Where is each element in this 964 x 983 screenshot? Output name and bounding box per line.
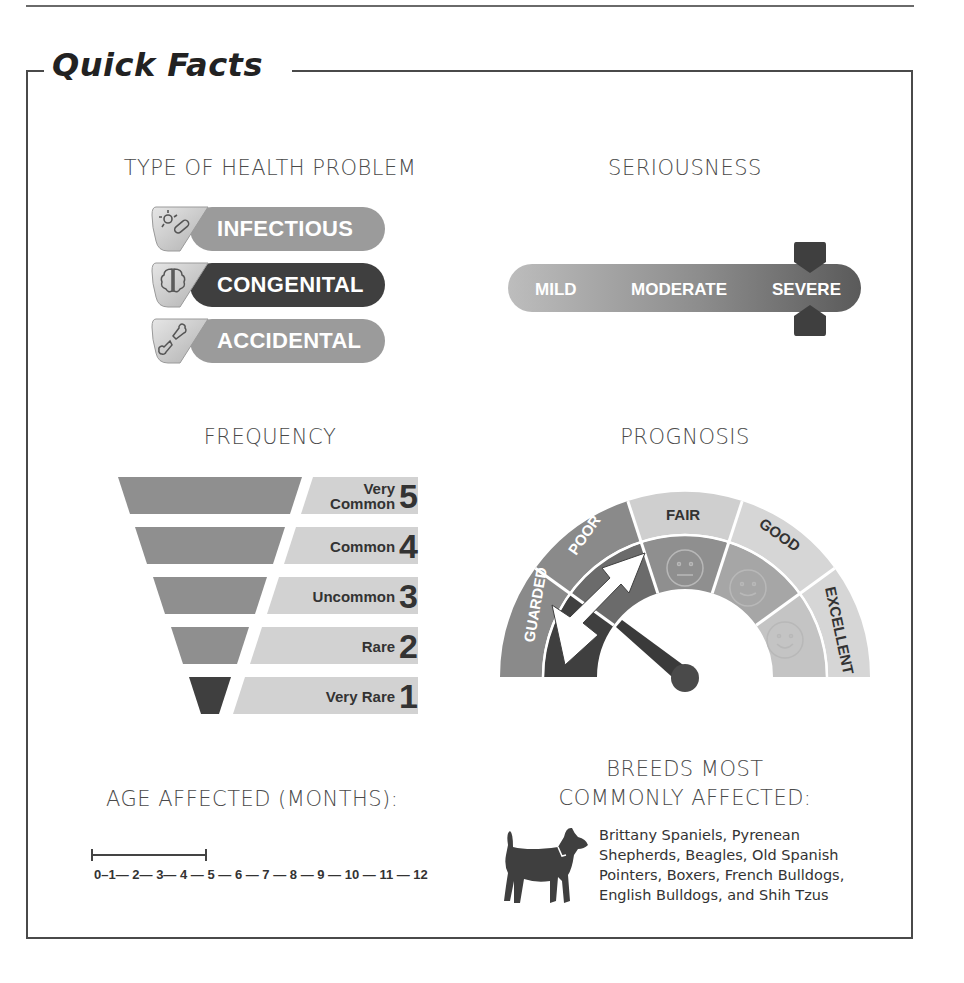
frequency-level-1: Very Rare 1: [270, 678, 418, 714]
frequency-label: Uncommon: [313, 589, 396, 604]
frequency-label: Very Rare: [326, 689, 395, 704]
age-scale: 0–1— 2— 3— 4 — 5 — 6 — 7 — 8 — 9 — 10 — …: [94, 867, 428, 882]
frequency-level-5: Very Common 5: [290, 478, 418, 514]
frequency-number: 5: [399, 479, 418, 513]
frequency-level-2: Rare 2: [270, 628, 418, 664]
age-range-bar: [90, 848, 210, 862]
broken-bone-icon: [150, 317, 212, 365]
panel-border-left-segment: [26, 70, 44, 72]
prognosis-gauge: GUARDED POOR FAIR GOOD EXCELLENT: [490, 480, 880, 710]
frequency-label: Rare: [362, 639, 395, 654]
frequency-number: 4: [399, 529, 418, 563]
frequency-heading: FREQUENCY: [160, 425, 380, 449]
svg-text:FAIR: FAIR: [666, 506, 700, 523]
breeds-list: Brittany Spaniels, Pyrenean Shepherds, B…: [599, 825, 899, 905]
top-divider: [26, 5, 914, 7]
type-heading: TYPE OF HEALTH PROBLEM: [100, 156, 440, 180]
panel-border-right-segment: [292, 70, 913, 72]
type-item-infectious: INFECTIOUS: [190, 207, 385, 251]
frequency-label: Very: [330, 481, 395, 496]
breeds-line: English Bulldogs, and Shih Tzus: [599, 885, 899, 905]
breeds-heading-line: BREEDS MOST: [530, 755, 840, 784]
frequency-label: Common: [330, 539, 395, 554]
type-label: CONGENITAL: [217, 272, 364, 298]
germ-icon: [150, 205, 212, 253]
frequency-level-3: Uncommon 3: [270, 578, 418, 614]
type-label: ACCIDENTAL: [217, 328, 361, 354]
breeds-line: Brittany Spaniels, Pyrenean: [599, 825, 899, 845]
breeds-line: Pointers, Boxers, French Bulldogs,: [599, 865, 899, 885]
seriousness-heading: SERIOUSNESS: [560, 156, 810, 180]
seriousness-severe: SEVERE: [772, 280, 841, 300]
frequency-label: Common: [330, 496, 395, 511]
frequency-number: 3: [399, 579, 418, 613]
prognosis-heading: PROGNOSIS: [580, 425, 790, 449]
age-heading: AGE AFFECTED (MONTHS):: [106, 787, 436, 811]
frequency-level-4: Common 4: [290, 528, 418, 564]
panel-title: Quick Facts: [52, 46, 263, 84]
seriousness-moderate: MODERATE: [631, 280, 727, 300]
breeds-heading-line: COMMONLY AFFECTED:: [530, 784, 840, 813]
type-item-congenital: CONGENITAL: [190, 263, 385, 307]
dog-icon: [500, 825, 590, 907]
brain-icon: [150, 261, 212, 309]
frequency-number: 2: [399, 629, 418, 663]
frequency-number: 1: [399, 679, 418, 713]
breeds-line: Shepherds, Beagles, Old Spanish: [599, 845, 899, 865]
breeds-heading: BREEDS MOST COMMONLY AFFECTED:: [530, 755, 840, 813]
seriousness-mild: MILD: [535, 280, 577, 300]
type-list: INFECTIOUS CONGENITAL ACCIDENTAL: [150, 205, 385, 370]
type-label: INFECTIOUS: [217, 216, 353, 242]
type-item-accidental: ACCIDENTAL: [190, 319, 385, 363]
